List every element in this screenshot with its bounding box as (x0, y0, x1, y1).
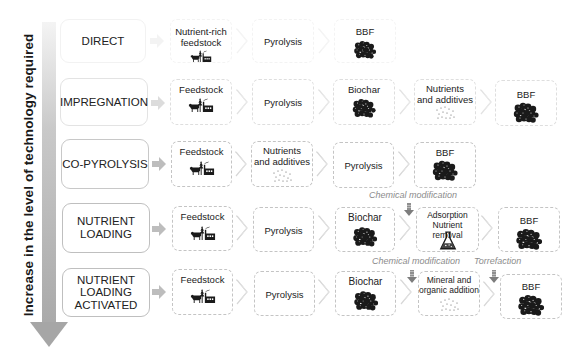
step-label: Feedstock (172, 146, 231, 157)
step-adsorption-nutrient-removal: AdsorptionNutrient removal (416, 207, 479, 252)
step-label: Biochar (334, 84, 394, 95)
step-label: and additives (417, 94, 473, 105)
granules-icon (513, 102, 539, 124)
method-nutrient-loading-activated: NUTRIENTLOADINGACTIVATED (62, 268, 150, 317)
method-nutrient-loading: NUTRIENTLOADING (62, 203, 150, 253)
dots-icon (438, 298, 460, 312)
chevron-right-icon (318, 28, 330, 54)
chevron-right-icon (318, 215, 330, 241)
livestock-factory-icon (188, 98, 214, 113)
step-label: Biochar (336, 212, 394, 223)
chevron-right-icon (399, 89, 411, 115)
step-label: Pyrolysis (255, 288, 314, 299)
step-label: Feedstock (173, 211, 232, 222)
method-label: DIRECT (82, 35, 125, 48)
step-bbf: BBF (495, 80, 557, 126)
step-pyrolysis: Pyrolysis (254, 271, 315, 316)
step-nutrient-rich-feedstock: Nutrient-richfeedstock (170, 19, 232, 63)
chevron-right-icon (481, 215, 493, 241)
step-nutrients-additives: Nutrientsand additives (414, 79, 476, 125)
granules-icon (352, 98, 376, 119)
chevron-right-icon (398, 151, 410, 177)
method-label: NUTRIENTLOADINGACTIVATED (75, 274, 138, 312)
granules-icon (353, 290, 378, 312)
method-impregnation: IMPREGNATION (60, 78, 148, 126)
step-nutrients-additives: Nutrientsand additives (251, 141, 313, 187)
chevron-right-icon (236, 279, 248, 305)
axis-label: Increase in the level of technology requ… (21, 34, 36, 317)
step-label: Feedstock (171, 84, 231, 95)
chevron-right-icon (483, 281, 495, 307)
chevron-right-icon (235, 151, 247, 177)
step-feedstock: Feedstock (170, 79, 232, 125)
technology-level-arrow-shaft (42, 22, 56, 327)
step-label: Feedstock (173, 274, 232, 285)
step-bbf: BBF (500, 274, 562, 319)
method-label: CO-PYROLYSIS (62, 158, 147, 171)
livestock-factory-icon (190, 289, 216, 304)
chevron-right-icon (236, 28, 248, 54)
chevron-right-icon (236, 89, 248, 115)
flask-icon (439, 231, 457, 251)
method-co-pyrolysis: CO-PYROLYSIS (61, 139, 149, 189)
step-label: feedstock (181, 37, 222, 48)
granules-icon (353, 226, 378, 248)
step-feedstock: Feedstock (172, 269, 233, 315)
step-bbf: BBF (334, 19, 396, 63)
chevron-right-icon (480, 89, 492, 115)
step-biochar: Biochar (335, 271, 396, 316)
granules-icon (354, 40, 377, 60)
step-label: organic addition (419, 285, 479, 295)
step-label: Pyrolysis (334, 160, 393, 171)
step-pyrolysis: Pyrolysis (252, 19, 314, 63)
chevron-right-icon (318, 89, 330, 115)
arrow-down-icon (30, 322, 68, 347)
step-label: Pyrolysis (253, 97, 313, 108)
chevron-right-icon (399, 215, 411, 241)
dots-icon (271, 169, 293, 183)
livestock-factory-icon (189, 161, 215, 176)
livestock-factory-icon (190, 50, 212, 63)
step-label: Nutrient-rich (175, 26, 227, 37)
step-label: BBF (496, 89, 556, 100)
annotation-chemical-modification: Chemical modification (372, 256, 460, 266)
step-label: BBF (415, 147, 475, 158)
chevron-right-icon (236, 215, 248, 241)
step-label: BBF (499, 215, 559, 226)
method-label: IMPREGNATION (60, 96, 148, 109)
arrow-right-icon (152, 285, 166, 299)
step-label: Pyrolysis (254, 224, 313, 235)
arrow-right-icon (152, 222, 166, 236)
step-mineral-organic-addition: Mineral andorganic addition (418, 271, 480, 316)
arrow-right-icon (150, 34, 164, 48)
step-label: Nutrients (426, 83, 464, 94)
livestock-factory-icon (190, 226, 216, 241)
annotation-chemical-modification: Chemical modification (369, 190, 457, 200)
method-label: NUTRIENTLOADING (77, 215, 135, 241)
step-biochar: Biochar (333, 79, 395, 125)
chevron-right-icon (316, 151, 328, 177)
step-pyrolysis: Pyrolysis (253, 207, 314, 252)
granules-icon (518, 294, 545, 317)
step-bbf: BBF (498, 207, 560, 252)
step-label: Adsorption (427, 210, 468, 220)
step-label: and additives (254, 156, 310, 167)
dots-icon (434, 106, 456, 120)
step-pyrolysis: Pyrolysis (252, 79, 314, 125)
step-label: BBF (335, 26, 395, 37)
step-label: Pyrolysis (253, 36, 313, 47)
granules-icon (516, 228, 543, 251)
chevron-right-icon (318, 279, 330, 305)
method-direct: DIRECT (60, 19, 146, 63)
step-feedstock: Feedstock (171, 141, 232, 187)
step-label: Biochar (336, 276, 395, 287)
arrow-right-icon (152, 157, 166, 171)
step-label: Nutrients (263, 145, 301, 156)
arrow-right-icon (151, 96, 165, 110)
step-biochar: Biochar (335, 207, 395, 252)
step-bbf: BBF (414, 142, 476, 188)
granules-icon (432, 160, 458, 182)
step-feedstock: Feedstock (172, 206, 233, 251)
chevron-right-icon (400, 279, 412, 305)
annotation-torrefaction: Torrefaction (474, 256, 521, 266)
